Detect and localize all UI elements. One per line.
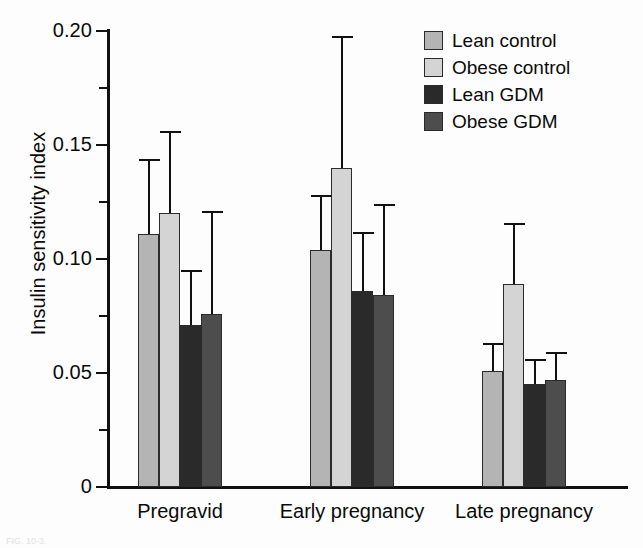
bar	[201, 314, 222, 487]
x-axis-category-label: Late pregnancy	[414, 500, 634, 523]
bar	[545, 380, 566, 487]
legend-item: Lean GDM	[424, 81, 570, 108]
error-bar-cap	[374, 204, 395, 206]
bar	[524, 384, 545, 487]
y-axis-tick-major	[96, 30, 107, 32]
bar	[180, 325, 201, 487]
legend-swatch-icon	[424, 112, 443, 131]
error-bar	[190, 270, 192, 325]
error-bar	[383, 204, 385, 295]
error-bar-cap	[353, 232, 374, 234]
error-bar	[211, 211, 213, 314]
y-axis-tick-major	[96, 144, 107, 146]
legend-item-label: Lean GDM	[452, 85, 544, 104]
error-bar	[513, 223, 515, 285]
error-bar	[555, 352, 557, 379]
error-bar-cap	[525, 359, 546, 361]
error-bar	[148, 159, 150, 234]
y-axis-tick-label: 0.15	[0, 134, 92, 154]
y-axis-tick-label: 0.05	[0, 362, 92, 382]
error-bar	[320, 195, 322, 250]
bar	[138, 234, 159, 487]
y-axis-tick-minor	[99, 87, 107, 89]
y-axis-tick-minor	[99, 315, 107, 317]
bar	[373, 295, 394, 487]
bar	[159, 213, 180, 487]
error-bar-cap	[181, 270, 202, 272]
y-axis-tick-minor	[99, 201, 107, 203]
error-bar-cap	[139, 159, 160, 161]
legend-item: Obese GDM	[424, 108, 570, 135]
error-bar	[492, 343, 494, 370]
legend-item-label: Obese control	[452, 58, 570, 77]
legend-item: Lean control	[424, 27, 570, 54]
error-bar-cap	[202, 211, 223, 213]
error-bar	[362, 232, 364, 291]
legend-item: Obese control	[424, 54, 570, 81]
y-axis-tick-label: 0	[0, 476, 92, 496]
legend-item-label: Obese GDM	[452, 112, 558, 131]
bar	[482, 371, 503, 487]
figure-container: Insulin sensitivity index 00.050.100.150…	[0, 0, 643, 548]
y-axis-tick-major	[96, 258, 107, 260]
y-axis-tick-label: 0.10	[0, 248, 92, 268]
legend-swatch-icon	[424, 31, 443, 50]
error-bar	[169, 131, 171, 213]
y-axis-tick-major	[96, 486, 107, 488]
bar	[503, 284, 524, 487]
error-bar-cap	[332, 36, 353, 38]
error-bar-cap	[546, 352, 567, 354]
legend-item-label: Lean control	[452, 31, 557, 50]
error-bar	[534, 359, 536, 384]
legend-swatch-icon	[424, 58, 443, 77]
bar	[331, 168, 352, 487]
chart-legend: Lean controlObese controlLean GDMObese G…	[424, 27, 570, 135]
bar	[352, 291, 373, 487]
error-bar-cap	[311, 195, 332, 197]
error-bar-cap	[160, 131, 181, 133]
y-axis-tick-major	[96, 372, 107, 374]
y-axis-tick-label: 0.20	[0, 20, 92, 40]
y-axis-tick-minor	[99, 429, 107, 431]
error-bar-cap	[483, 343, 504, 345]
error-bar-cap	[504, 223, 525, 225]
caption-fragment: FIG. 10-3.	[6, 536, 47, 546]
bar	[310, 250, 331, 487]
error-bar	[341, 36, 343, 168]
legend-swatch-icon	[424, 85, 443, 104]
